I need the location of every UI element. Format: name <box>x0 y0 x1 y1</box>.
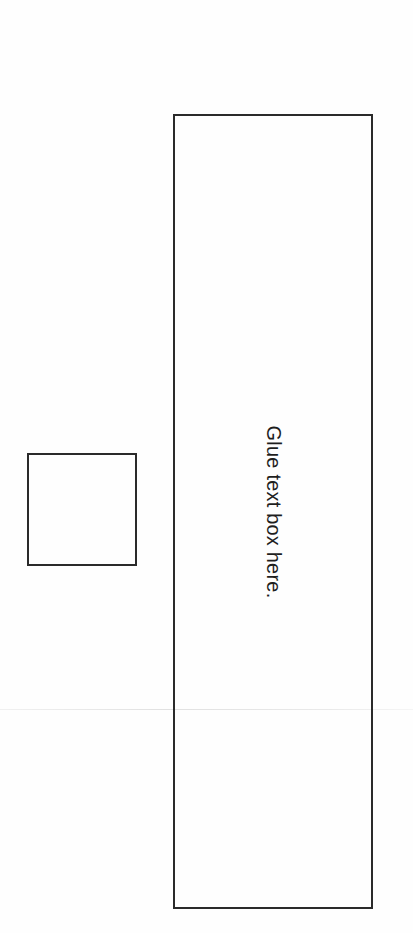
glue-text-box-area: Glue text box here. <box>173 114 373 909</box>
small-answer-box <box>27 453 137 566</box>
worksheet-page: Glue text box here. <box>0 0 413 933</box>
glue-box-label: Glue text box here. <box>262 425 285 598</box>
